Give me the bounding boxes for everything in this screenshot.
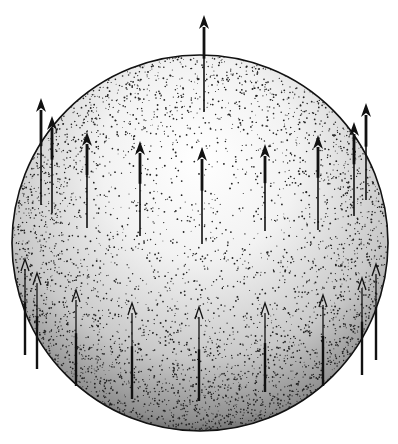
figure-canvas bbox=[0, 0, 398, 444]
sphere-field-illustration bbox=[0, 0, 398, 444]
